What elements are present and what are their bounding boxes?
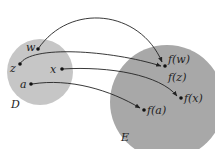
mapping-diagram: w z x a D f(w) f(z) f(x) f(a) E (0, 0, 215, 149)
label-fx: f(x) (183, 92, 203, 105)
point-z (18, 62, 22, 66)
label-x: x (50, 63, 57, 76)
point-a (29, 82, 33, 86)
point-fw-fz (163, 64, 167, 68)
label-z: z (9, 62, 16, 75)
label-fw: f(w) (167, 53, 190, 66)
label-fa: f(a) (146, 104, 166, 117)
label-E: E (120, 131, 129, 144)
point-x (60, 67, 64, 71)
label-a: a (20, 78, 27, 91)
label-w: w (26, 41, 36, 54)
label-fz: f(z) (167, 71, 186, 84)
point-w (36, 47, 40, 51)
label-D: D (10, 98, 20, 111)
point-fa (142, 108, 146, 112)
domain-set-D (7, 39, 73, 105)
point-fx (179, 96, 183, 100)
